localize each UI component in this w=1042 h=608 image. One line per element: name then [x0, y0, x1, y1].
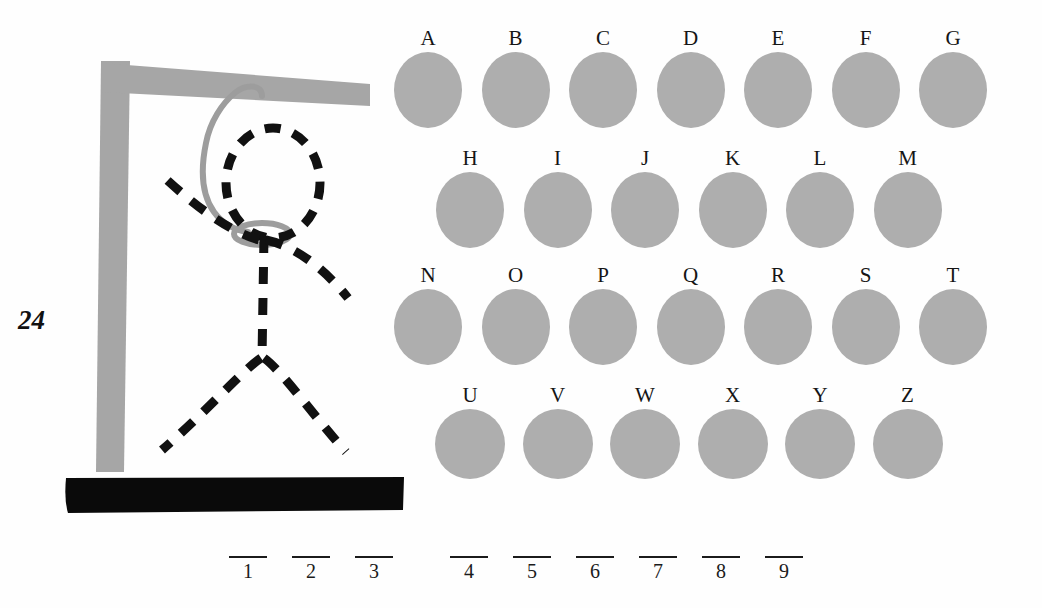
answer-blank-3[interactable]: 3 — [348, 556, 400, 582]
answer-blank-2[interactable]: 2 — [285, 556, 337, 582]
answer-blank-index: 7 — [632, 560, 684, 582]
letter-label-p: P — [563, 263, 643, 287]
letter-option-r[interactable]: R — [738, 263, 818, 365]
letter-disc-h[interactable] — [436, 172, 504, 248]
letter-disc-u[interactable] — [435, 409, 505, 479]
letter-label-q: Q — [651, 263, 731, 287]
answer-blank-index: 9 — [758, 560, 810, 582]
letter-label-a: A — [388, 26, 468, 50]
letter-label-h: H — [430, 146, 510, 170]
letter-option-i[interactable]: I — [518, 146, 598, 248]
letter-disc-m[interactable] — [874, 172, 942, 248]
answer-blank-rule — [702, 556, 740, 558]
letter-disc-c[interactable] — [569, 52, 637, 128]
gallows-base-icon — [65, 477, 404, 513]
letter-option-a[interactable]: A — [388, 26, 468, 128]
letter-label-z: Z — [868, 383, 948, 407]
letter-option-q[interactable]: Q — [651, 263, 731, 365]
letter-option-h[interactable]: H — [430, 146, 510, 248]
answer-blank-4[interactable]: 4 — [443, 556, 495, 582]
letter-disc-k[interactable] — [699, 172, 767, 248]
gallows-post-icon — [96, 61, 130, 472]
answer-blank-1[interactable]: 1 — [222, 556, 274, 582]
letter-label-x: X — [693, 383, 773, 407]
letter-label-l: L — [780, 146, 860, 170]
gallows-beam-icon — [101, 63, 370, 106]
letter-option-k[interactable]: K — [693, 146, 773, 248]
answer-blank-6[interactable]: 6 — [569, 556, 621, 582]
letter-disc-i[interactable] — [524, 172, 592, 248]
letter-disc-r[interactable] — [744, 289, 812, 365]
letter-disc-l[interactable] — [786, 172, 854, 248]
letter-option-b[interactable]: B — [476, 26, 556, 128]
letter-label-m: M — [868, 146, 948, 170]
answer-blank-index: 5 — [506, 560, 558, 582]
answer-blank-5[interactable]: 5 — [506, 556, 558, 582]
letter-disc-y[interactable] — [785, 409, 855, 479]
letter-option-d[interactable]: D — [651, 26, 731, 128]
answer-blank-7[interactable]: 7 — [632, 556, 684, 582]
answer-blank-8[interactable]: 8 — [695, 556, 747, 582]
letter-label-c: C — [563, 26, 643, 50]
letter-disc-q[interactable] — [657, 289, 725, 365]
letter-label-o: O — [476, 263, 556, 287]
letter-option-t[interactable]: T — [913, 263, 993, 365]
answer-blank-rule — [292, 556, 330, 558]
letter-label-f: F — [826, 26, 906, 50]
letter-disc-n[interactable] — [394, 289, 462, 365]
letter-disc-j[interactable] — [611, 172, 679, 248]
letter-disc-g[interactable] — [919, 52, 987, 128]
letter-disc-v[interactable] — [523, 409, 593, 479]
letter-option-p[interactable]: P — [563, 263, 643, 365]
letter-disc-d[interactable] — [657, 52, 725, 128]
figure-left-leg-icon — [162, 358, 261, 450]
letter-label-w: W — [605, 383, 685, 407]
letter-label-k: K — [693, 146, 773, 170]
letter-option-y[interactable]: Y — [780, 383, 860, 479]
answer-blanks-row: 123456789 — [0, 556, 1042, 608]
letter-disc-x[interactable] — [698, 409, 768, 479]
letter-option-u[interactable]: U — [430, 383, 510, 479]
letter-option-l[interactable]: L — [780, 146, 860, 248]
letter-disc-p[interactable] — [569, 289, 637, 365]
answer-blank-rule — [765, 556, 803, 558]
letter-label-s: S — [826, 263, 906, 287]
letter-disc-t[interactable] — [919, 289, 987, 365]
letter-label-u: U — [430, 383, 510, 407]
letter-option-s[interactable]: S — [826, 263, 906, 365]
letter-option-o[interactable]: O — [476, 263, 556, 365]
answer-blank-index: 1 — [222, 560, 274, 582]
answer-blank-rule — [355, 556, 393, 558]
answer-blank-index: 4 — [443, 560, 495, 582]
figure-right-leg-icon — [264, 358, 346, 452]
answer-blank-rule — [229, 556, 267, 558]
hangman-puzzle-page: 24 ABCDEFGHIJKLM — [0, 0, 1042, 608]
letter-disc-a[interactable] — [394, 52, 462, 128]
letter-label-y: Y — [780, 383, 860, 407]
letter-option-x[interactable]: X — [693, 383, 773, 479]
letter-disc-w[interactable] — [610, 409, 680, 479]
answer-blank-9[interactable]: 9 — [758, 556, 810, 582]
letter-label-v: V — [518, 383, 598, 407]
letter-disc-z[interactable] — [873, 409, 943, 479]
letter-option-v[interactable]: V — [518, 383, 598, 479]
letter-disc-b[interactable] — [482, 52, 550, 128]
letter-option-f[interactable]: F — [826, 26, 906, 128]
letter-disc-e[interactable] — [744, 52, 812, 128]
letter-option-j[interactable]: J — [605, 146, 685, 248]
letter-disc-f[interactable] — [832, 52, 900, 128]
letter-option-n[interactable]: N — [388, 263, 468, 365]
letter-option-m[interactable]: M — [868, 146, 948, 248]
letter-label-i: I — [518, 146, 598, 170]
letter-disc-s[interactable] — [832, 289, 900, 365]
letter-label-t: T — [913, 263, 993, 287]
letter-option-z[interactable]: Z — [868, 383, 948, 479]
letter-option-g[interactable]: G — [913, 26, 993, 128]
letter-option-e[interactable]: E — [738, 26, 818, 128]
letter-disc-o[interactable] — [482, 289, 550, 365]
answer-blank-index: 6 — [569, 560, 621, 582]
letter-label-d: D — [651, 26, 731, 50]
letter-option-w[interactable]: W — [605, 383, 685, 479]
letter-option-c[interactable]: C — [563, 26, 643, 128]
letter-label-n: N — [388, 263, 468, 287]
